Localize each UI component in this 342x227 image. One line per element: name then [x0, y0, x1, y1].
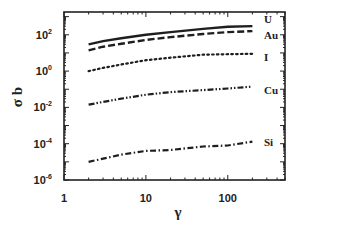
- chart: 11010010210010-210-410-6UAuICuSi γ σ b: [0, 0, 342, 227]
- x-tick-label: 100: [219, 192, 237, 204]
- x-tick-label: 1: [61, 192, 67, 204]
- y-tick-label: 100: [36, 64, 52, 77]
- y-tick-label: 10-4: [34, 137, 53, 150]
- x-axis-title: γ: [173, 204, 181, 220]
- y-axis-title: σ b: [9, 87, 25, 107]
- series-line-i: [89, 54, 253, 71]
- series-label-cu: Cu: [264, 84, 278, 96]
- series-label-au: Au: [264, 29, 278, 41]
- y-tick-label: 102: [36, 28, 52, 41]
- labels-layer: 11010010210010-210-410-6UAuICuSi: [34, 13, 279, 204]
- series-line-si: [89, 142, 253, 162]
- y-tick-label: 10-2: [34, 100, 53, 113]
- series-line-u: [89, 26, 253, 44]
- x-tick-label: 10: [140, 192, 152, 204]
- series-line-cu: [89, 87, 253, 105]
- plot-area: [64, 12, 285, 180]
- plot-frame: [64, 12, 285, 180]
- series-label-si: Si: [264, 136, 273, 148]
- series-label-u: U: [264, 13, 272, 25]
- y-tick-label: 10-6: [34, 173, 53, 186]
- ticks-layer: [64, 12, 285, 180]
- series-label-i: I: [264, 51, 268, 63]
- series-layer: [89, 26, 253, 162]
